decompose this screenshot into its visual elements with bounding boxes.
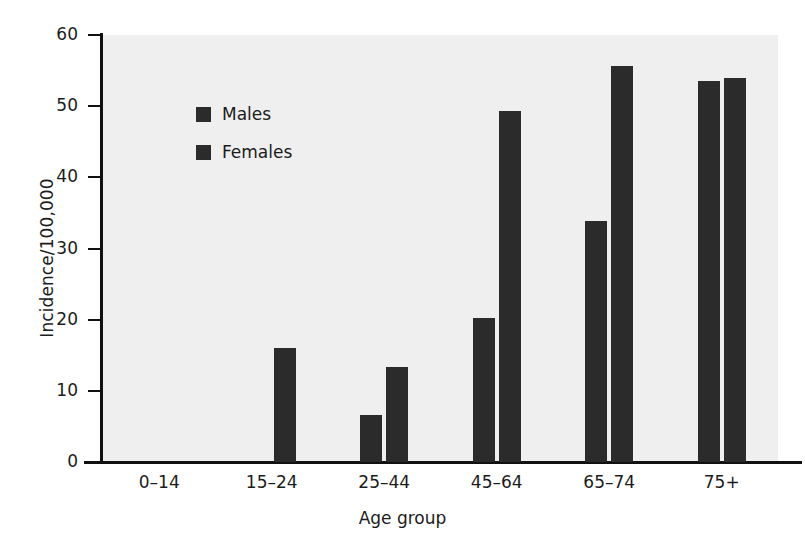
y-axis-tick-label: 0 xyxy=(30,453,78,470)
y-axis-tick-label: 10 xyxy=(30,382,78,399)
bar-males-5 xyxy=(698,81,720,462)
chart-legend: MalesFemales xyxy=(196,104,292,180)
bar-males-3 xyxy=(473,318,495,462)
x-axis-tick-label: 0–14 xyxy=(103,472,216,492)
y-axis-tick-label: 30 xyxy=(30,240,78,257)
x-axis-line xyxy=(84,461,802,464)
bar-females-2 xyxy=(386,367,408,462)
y-axis-tick-mark xyxy=(88,390,101,392)
bar-males-2 xyxy=(360,415,382,462)
bar-females-4 xyxy=(611,66,633,462)
x-axis-tick-label: 25–44 xyxy=(328,472,441,492)
x-axis-tick-label: 45–64 xyxy=(441,472,554,492)
y-axis-tick-mark xyxy=(88,176,101,178)
y-axis-tick-label: 40 xyxy=(30,168,78,185)
x-axis-tick-label: 75+ xyxy=(666,472,779,492)
y-axis-tick-mark xyxy=(88,461,101,463)
x-axis-tick-label: 65–74 xyxy=(553,472,666,492)
y-axis-tick-label: 20 xyxy=(30,311,78,328)
legend-item-males: Males xyxy=(196,104,292,124)
bar-females-5 xyxy=(724,78,746,462)
y-axis-tick-mark xyxy=(88,105,101,107)
y-axis-tick-label: 50 xyxy=(30,97,78,114)
legend-label: Females xyxy=(222,144,292,161)
bar-chart-figure: Incidence/100,000 0102030405060 0–1415–2… xyxy=(0,0,805,547)
y-axis-tick-mark xyxy=(88,34,101,36)
legend-swatch-icon xyxy=(196,145,211,160)
x-axis-title: Age group xyxy=(0,508,805,528)
y-axis-tick-mark xyxy=(88,248,101,250)
legend-swatch-icon xyxy=(196,107,211,122)
legend-label: Males xyxy=(222,106,271,123)
x-axis-tick-label: 15–24 xyxy=(216,472,329,492)
bar-females-3 xyxy=(499,111,521,462)
plot-area xyxy=(103,35,778,462)
y-axis-tick-mark xyxy=(88,319,101,321)
bar-males-4 xyxy=(585,221,607,462)
y-axis-tick-label: 60 xyxy=(30,26,78,43)
legend-item-females: Females xyxy=(196,142,292,162)
bar-females-1 xyxy=(274,348,296,462)
